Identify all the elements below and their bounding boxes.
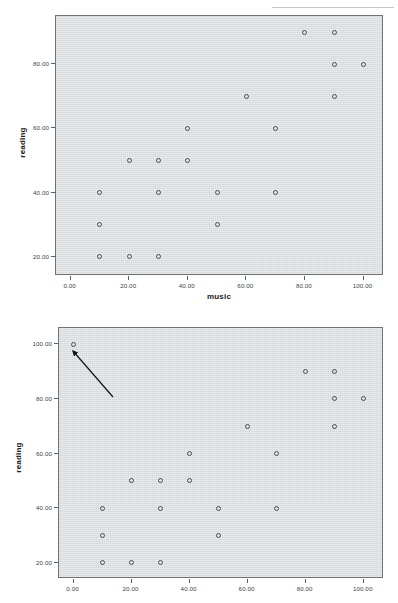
x-tick-label: 80.00 — [297, 585, 313, 592]
x-tick — [73, 579, 74, 583]
x-tick — [363, 579, 364, 583]
y-tick-label: 20.00 — [11, 252, 49, 259]
x-tick-label: 100.00 — [353, 282, 373, 289]
x-axis-title-top: music — [55, 292, 383, 301]
y-tick — [54, 562, 58, 563]
x-tick — [305, 579, 306, 583]
y-tick — [54, 343, 58, 344]
x-tick-label: 20.00 — [123, 585, 139, 592]
x-tick — [187, 276, 188, 280]
x-tick-label: 60.00 — [237, 282, 253, 289]
y-tick-label: 80.00 — [11, 60, 49, 67]
chart-scatter-bottom: reading 0.0020.0040.0060.0080.00100.0020… — [0, 310, 398, 603]
x-tick — [70, 276, 71, 280]
y-tick — [51, 127, 55, 128]
y-tick-label: 40.00 — [14, 504, 52, 511]
x-tick-label: 40.00 — [179, 282, 195, 289]
y-tick-label: 20.00 — [14, 558, 52, 565]
x-tick — [245, 276, 246, 280]
y-tick-label: 80.00 — [14, 394, 52, 401]
axis-ticks-bottom: 0.0020.0040.0060.0080.00100.0020.0040.00… — [0, 310, 398, 603]
y-tick-label: 60.00 — [14, 449, 52, 456]
x-tick-label: 80.00 — [296, 282, 312, 289]
x-tick-label: 0.00 — [63, 282, 75, 289]
y-tick-label: 40.00 — [11, 188, 49, 195]
x-tick-label: 100.00 — [353, 585, 373, 592]
x-tick — [363, 276, 364, 280]
spss-scatterplot-output-page: reading 0.0020.0040.0060.0080.00100.0020… — [0, 0, 398, 603]
y-tick — [51, 256, 55, 257]
x-tick — [131, 579, 132, 583]
y-tick — [51, 192, 55, 193]
y-tick-label: 100.00 — [14, 340, 52, 347]
x-tick — [128, 276, 129, 280]
y-tick-label: 60.00 — [11, 124, 49, 131]
y-tick — [54, 507, 58, 508]
x-tick — [247, 579, 248, 583]
x-tick-label: 40.00 — [181, 585, 197, 592]
y-tick — [54, 453, 58, 454]
x-tick-label: 0.00 — [66, 585, 78, 592]
x-tick-label: 60.00 — [239, 585, 255, 592]
axis-ticks-top: 0.0020.0040.0060.0080.00100.0020.0040.00… — [0, 0, 398, 310]
y-tick — [54, 398, 58, 399]
y-tick — [51, 63, 55, 64]
x-tick-label: 20.00 — [120, 282, 136, 289]
x-tick — [304, 276, 305, 280]
x-tick — [189, 579, 190, 583]
chart-scatter-top: reading 0.0020.0040.0060.0080.00100.0020… — [0, 0, 398, 310]
